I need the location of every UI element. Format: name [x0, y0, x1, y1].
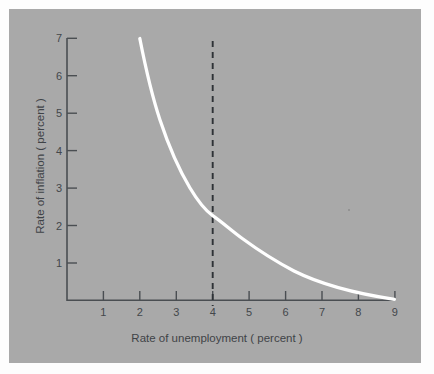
- y-tick-label-1: 1: [50, 257, 62, 269]
- y-tick-label-5: 5: [50, 107, 62, 119]
- x-tick-label-7: 7: [319, 306, 325, 318]
- y-tick-label-2: 2: [50, 220, 62, 232]
- x-axis-title: Rate of unemployment ( percent ): [0, 332, 434, 344]
- y-axis-title: Rate of inflation ( percent ): [34, 66, 46, 266]
- paper-speck: [348, 209, 350, 211]
- y-tick-label-3: 3: [50, 182, 62, 194]
- x-tick-label-2: 2: [137, 306, 143, 318]
- y-tick-label-4: 4: [50, 145, 62, 157]
- phillips-curve-line: [140, 39, 395, 300]
- x-tick-label-1: 1: [100, 306, 106, 318]
- phillips-curve-figure: 1 2 3 4 5 6 7 8 9 1 2 3 4 5 6 7 Rate of …: [0, 0, 434, 374]
- y-tick-label-7: 7: [50, 32, 62, 44]
- x-tick-label-5: 5: [246, 306, 252, 318]
- x-tick-label-4: 4: [210, 306, 216, 318]
- x-tick-label-3: 3: [173, 306, 179, 318]
- x-tick-label-9: 9: [392, 306, 398, 318]
- y-tick-label-6: 6: [50, 70, 62, 82]
- x-tick-label-8: 8: [355, 306, 361, 318]
- x-tick-label-6: 6: [283, 306, 289, 318]
- y-axis-ticks: [67, 38, 77, 263]
- chart-plot-area: [0, 0, 434, 374]
